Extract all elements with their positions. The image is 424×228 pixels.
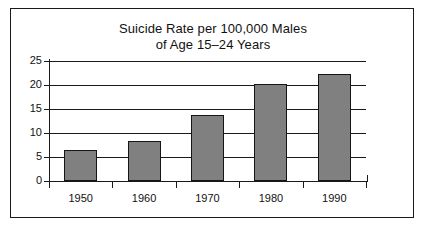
y-axis-tick-label: 0 <box>16 175 42 186</box>
y-axis-tick-label: 15 <box>16 103 42 114</box>
bar-series <box>49 61 366 181</box>
y-axis-tick-label: 5 <box>16 151 42 162</box>
bar <box>318 74 351 181</box>
x-axis-tick-label: 1980 <box>241 192 301 204</box>
x-axis-tick-label: 1960 <box>114 192 174 204</box>
x-axis-tick <box>366 182 367 188</box>
chart-figure: Suicide Rate per 100,000 Males of Age 15… <box>0 0 424 228</box>
y-axis-tick-label: 20 <box>16 79 42 90</box>
x-axis-tick <box>303 182 304 188</box>
x-axis-tick <box>112 182 113 188</box>
chart-title-line-2: of Age 15–24 Years <box>11 37 415 53</box>
bar <box>64 150 97 181</box>
chart-frame: Suicide Rate per 100,000 Males of Age 15… <box>10 8 414 218</box>
x-axis-tick <box>239 182 240 188</box>
y-axis-tick-labels: 0510152025 <box>11 9 42 219</box>
x-axis-tick-label: 1970 <box>178 192 238 204</box>
x-axis-tick <box>176 182 177 188</box>
bar <box>191 115 224 181</box>
x-axis-tick-label: 1990 <box>304 192 364 204</box>
bar <box>128 141 161 181</box>
y-axis-tick-label: 10 <box>16 127 42 138</box>
x-axis-tick <box>49 182 50 188</box>
x-axis-line <box>49 181 368 182</box>
y-axis-tick-label: 25 <box>16 55 42 66</box>
bar <box>254 84 287 181</box>
x-axis-tick-label: 1950 <box>51 192 111 204</box>
chart-title-line-1: Suicide Rate per 100,000 Males <box>11 21 415 37</box>
x-axis-end-tick <box>367 175 368 182</box>
chart-title: Suicide Rate per 100,000 Males of Age 15… <box>11 21 415 53</box>
